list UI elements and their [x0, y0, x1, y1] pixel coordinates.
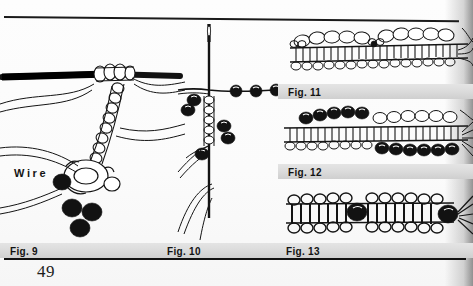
figure-11-caption-bar: Fig. 11	[278, 84, 473, 99]
figure-13-caption-label: Fig. 13	[286, 245, 320, 256]
page-number: 49	[37, 262, 55, 282]
figure-9-caption-label: Fig. 9	[10, 245, 38, 256]
figure-12-caption-label: Fig. 12	[288, 166, 322, 177]
bottom-horizontal-rule	[4, 258, 466, 260]
figure-11-illustration	[286, 24, 473, 82]
figure-9-illustration	[0, 56, 185, 241]
figure-12-illustration	[282, 104, 473, 162]
figure-10-illustration	[178, 22, 290, 242]
figure-12-caption-bar: Fig. 12	[278, 164, 473, 179]
figure-11-caption-label: Fig. 11	[288, 86, 321, 97]
figure-13-illustration	[282, 190, 473, 242]
figure-10-caption-label: Fig. 10	[167, 245, 201, 256]
wire-label: Wire	[14, 167, 48, 179]
bottom-caption-bar: Fig. 9 Fig. 10 Fig. 13	[0, 243, 473, 258]
scanned-book-page: Wire Fig. 11 Fig. 12 Fig. 9 Fig. 10 Fig.…	[0, 0, 473, 286]
